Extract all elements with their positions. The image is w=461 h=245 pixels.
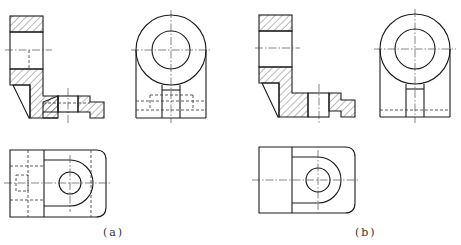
side-view-a <box>131 10 212 123</box>
side-view-b <box>374 9 456 123</box>
front-view-a <box>5 16 104 123</box>
drawing-canvas <box>0 0 461 245</box>
front-view-b <box>255 15 355 123</box>
top-view-a <box>4 150 110 217</box>
panel-b <box>252 9 456 213</box>
panel-label-b: (b) <box>355 226 377 239</box>
panel-label-a: (a) <box>103 226 124 239</box>
top-view-b <box>252 147 360 213</box>
panel-a <box>4 10 212 217</box>
